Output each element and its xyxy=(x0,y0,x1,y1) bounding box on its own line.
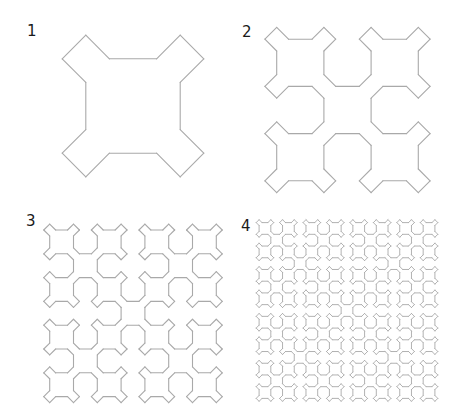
curve-segment xyxy=(411,267,414,270)
curve-iteration-1 xyxy=(62,35,204,177)
curve-segment xyxy=(91,230,97,236)
curve-segment xyxy=(315,220,318,223)
curve-segment xyxy=(256,375,259,378)
curve-iteration-3 xyxy=(44,224,223,402)
curve-segment xyxy=(187,343,193,349)
curve-segment xyxy=(271,398,274,401)
curve-segment xyxy=(365,267,368,270)
curve-segment xyxy=(256,243,259,246)
curve-segment xyxy=(373,278,376,281)
curve-segment xyxy=(376,281,379,284)
curve-segment xyxy=(169,278,175,284)
curve-segment xyxy=(329,281,332,284)
curve-segment xyxy=(376,305,379,308)
curve-segment xyxy=(115,397,121,403)
curve-segment xyxy=(139,278,145,284)
curve-segment xyxy=(306,290,309,293)
curve-segment xyxy=(303,231,306,234)
curve-segment xyxy=(326,302,329,305)
curve-segment xyxy=(385,305,388,308)
curve-segment xyxy=(411,220,414,223)
curve-segment xyxy=(329,258,332,261)
curve-segment xyxy=(180,59,204,83)
curve-segment xyxy=(373,293,376,296)
curve-segment xyxy=(268,290,271,293)
curve-segment xyxy=(411,255,414,258)
curve-segment xyxy=(326,305,329,308)
curve-segment xyxy=(373,231,376,234)
curve-segment xyxy=(365,387,368,390)
curve-segment xyxy=(259,360,262,363)
curve-segment xyxy=(350,375,353,378)
curve-segment xyxy=(303,313,306,316)
curve-segment xyxy=(283,281,286,284)
curve-segment xyxy=(256,246,259,249)
curve-segment xyxy=(268,398,271,401)
curve-segment xyxy=(418,39,430,51)
curve-segment xyxy=(294,363,297,366)
curve-segment xyxy=(350,360,353,363)
curve-segment xyxy=(326,246,329,249)
curve-segment xyxy=(97,349,103,355)
curve-segment xyxy=(187,391,193,397)
curve-segment xyxy=(256,313,259,316)
curve-segment xyxy=(397,278,400,281)
curve-segment xyxy=(265,134,277,146)
curve-segment xyxy=(256,255,259,258)
curve-segment xyxy=(303,243,306,246)
curve-segment xyxy=(121,325,127,331)
curve-segment xyxy=(315,375,318,378)
curve-segment xyxy=(216,224,222,230)
curve-segment xyxy=(318,302,321,305)
curve-segment xyxy=(280,360,283,363)
curve-segment xyxy=(326,255,329,258)
curve-segment xyxy=(169,343,175,349)
curve-segment xyxy=(341,243,344,246)
curve-segment xyxy=(291,328,294,331)
curve-segment xyxy=(216,343,222,349)
curve-segment xyxy=(373,305,376,308)
curve-segment xyxy=(411,246,414,249)
curve-segment xyxy=(435,340,438,343)
curve-segment xyxy=(326,278,329,281)
curve-segment xyxy=(115,272,121,278)
curve-segment xyxy=(350,398,353,401)
curve-segment xyxy=(362,384,365,387)
curve-segment xyxy=(338,290,341,293)
curve-segment xyxy=(50,224,56,230)
curve-segment xyxy=(193,367,199,373)
curve-segment xyxy=(291,220,294,223)
curve-segment xyxy=(388,325,391,328)
curve-segment xyxy=(409,243,412,246)
curve-segment xyxy=(259,220,262,223)
curve-segment xyxy=(341,255,344,258)
curve-segment xyxy=(376,220,379,223)
curve-segment xyxy=(280,302,283,305)
curve-segment xyxy=(216,254,222,260)
curve-segment xyxy=(435,269,438,272)
curve-segment xyxy=(341,293,344,296)
curve-segment xyxy=(350,363,353,366)
curve-segment xyxy=(385,398,388,401)
curve-segment xyxy=(271,352,274,355)
curve-segment xyxy=(397,325,400,328)
curve-segment xyxy=(359,181,371,193)
curve-segment xyxy=(145,349,151,355)
curve-segment xyxy=(318,293,321,296)
curve-segment xyxy=(385,234,388,237)
curve-segment xyxy=(306,258,309,261)
curve-segment xyxy=(318,246,321,249)
curve-segment xyxy=(280,278,283,281)
curve-segment xyxy=(306,234,309,237)
curve-segment xyxy=(411,231,414,234)
curve-segment xyxy=(432,328,435,331)
curve-segment xyxy=(271,223,274,226)
curve-segment xyxy=(268,384,271,387)
curve-segment xyxy=(423,375,426,378)
curve-segment xyxy=(318,398,321,401)
curve-segment xyxy=(388,231,391,234)
curve-segment xyxy=(435,267,438,270)
curve-segment xyxy=(388,293,391,296)
curve-segment xyxy=(385,290,388,293)
curve-segment xyxy=(294,231,297,234)
